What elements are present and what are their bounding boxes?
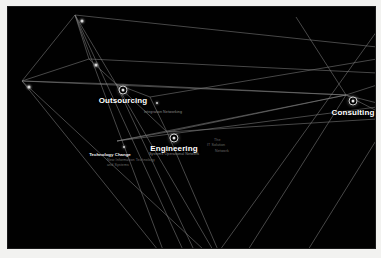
graph-node-technology-change[interactable] <box>123 146 125 148</box>
graph-hub-consulting[interactable] <box>349 97 358 106</box>
graph-node-top[interactable] <box>81 20 84 23</box>
node-marker-icon <box>123 146 125 148</box>
graph-node-integration[interactable] <box>156 102 158 104</box>
hub-ring-icon <box>170 134 179 143</box>
graph-edges <box>8 7 376 249</box>
graph-node-upper-mid[interactable] <box>95 64 98 67</box>
hub-ring-icon <box>349 97 358 106</box>
node-marker-icon <box>28 86 31 89</box>
image-frame: Outsourcing Engineering Consulting Integ… <box>0 0 381 258</box>
node-marker-icon <box>95 64 98 67</box>
graph-node-left[interactable] <box>28 86 31 89</box>
graph-hub-outsourcing[interactable] <box>119 86 128 95</box>
node-marker-icon <box>81 20 84 23</box>
graph-canvas[interactable]: Outsourcing Engineering Consulting Integ… <box>7 6 376 249</box>
graph-hub-engineering[interactable] <box>170 134 179 143</box>
node-marker-icon <box>156 102 158 104</box>
hub-ring-icon <box>119 86 128 95</box>
